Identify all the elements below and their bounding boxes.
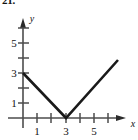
y-tick-label-1: 1 bbox=[11, 97, 17, 109]
absolute-value-graph-figure: 21. 1 3 5 1 3 5 y x bbox=[0, 0, 138, 140]
x-axis-label: x bbox=[130, 118, 136, 129]
x-axis-arrowhead bbox=[116, 115, 126, 121]
y-axis-arrowhead bbox=[20, 18, 26, 28]
x-tick-label-1: 1 bbox=[34, 125, 40, 137]
x-tick-label-5: 5 bbox=[91, 125, 97, 137]
coordinate-plot: 1 3 5 1 3 5 y x bbox=[0, 0, 138, 140]
absolute-value-curve bbox=[23, 60, 118, 118]
y-tick-label-5: 5 bbox=[11, 37, 17, 49]
y-axis-label: y bbox=[29, 13, 35, 24]
y-tick-label-3: 3 bbox=[11, 67, 17, 79]
x-tick-label-3: 3 bbox=[63, 125, 69, 137]
